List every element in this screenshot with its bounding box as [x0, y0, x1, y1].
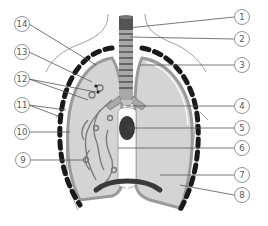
lung-left	[68, 58, 122, 200]
heart	[118, 108, 136, 191]
lymph-dot	[96, 90, 99, 93]
label-3: 3	[239, 60, 244, 70]
label-8: 8	[239, 190, 244, 200]
label-1: 1	[239, 12, 244, 22]
label-5: 5	[239, 123, 244, 133]
label-13: 13	[17, 47, 28, 57]
label-2: 2	[239, 34, 244, 44]
label-10: 10	[17, 127, 28, 137]
lung-anatomy-diagram: 1 2 3 4 5 6 7 8 14 13 12	[0, 0, 268, 226]
label-11: 11	[17, 100, 28, 110]
label-14: 14	[17, 19, 28, 29]
lymph-dot	[94, 84, 97, 87]
label-12: 12	[17, 74, 28, 84]
label-6: 6	[239, 143, 244, 153]
label-4: 4	[239, 101, 244, 111]
label-9: 9	[20, 155, 25, 165]
label-7: 7	[239, 170, 244, 180]
